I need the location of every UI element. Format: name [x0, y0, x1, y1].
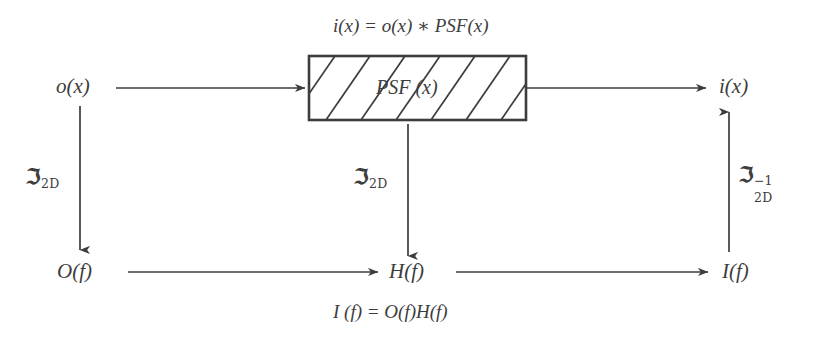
psf-block-label: PSF (x)	[376, 77, 438, 97]
transform-subscript-left: 2D	[41, 176, 59, 191]
node-image-spectrum: I(f)	[722, 261, 749, 282]
transform-superscript-right: −1	[754, 175, 772, 188]
node-object-spatial: o(x)	[56, 76, 90, 97]
top-equation: i(x) = o(x) ∗ PSF(x)	[333, 16, 489, 35]
transform-label-right: ℑ −1 2D	[739, 164, 776, 185]
transform-label-center: ℑ2D	[354, 166, 387, 191]
transform-label-left: ℑ2D	[26, 166, 59, 191]
diagram-vector-layer: PSF block --> i(x) --> O(f) --> H(f) -->…	[0, 0, 815, 337]
transform-subscript-right: 2D	[754, 192, 772, 205]
node-object-spectrum: O(f)	[57, 261, 92, 282]
node-image-spatial: i(x)	[719, 76, 748, 97]
fraktur-i-icon: ℑ	[739, 162, 754, 187]
fraktur-i-icon: ℑ	[26, 164, 41, 189]
fraktur-i-icon: ℑ	[354, 164, 369, 189]
bottom-equation: I (f) = O(f)H(f)	[333, 302, 448, 321]
transform-subscript-center: 2D	[369, 176, 387, 191]
node-transfer-function: H(f)	[389, 261, 424, 282]
imaging-fourier-diagram: PSF block --> i(x) --> O(f) --> H(f) -->…	[0, 0, 815, 337]
